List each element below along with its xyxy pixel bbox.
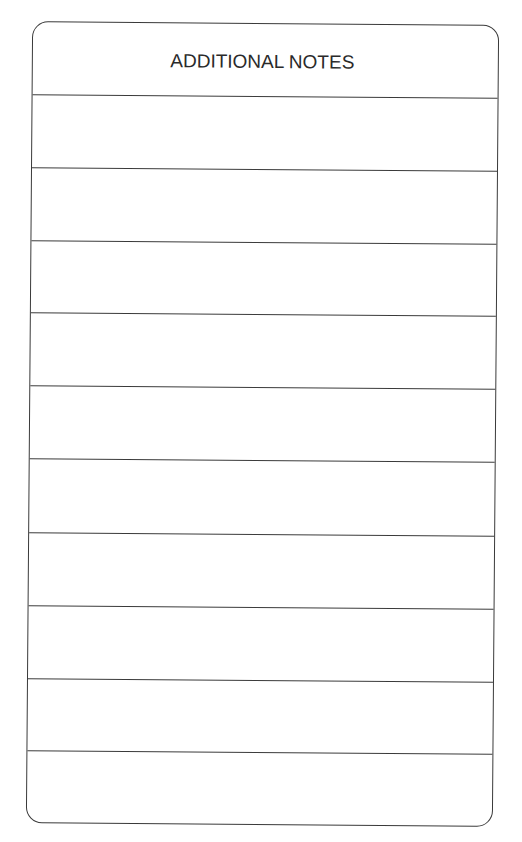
notes-title: ADDITIONAL NOTES xyxy=(170,50,354,73)
note-line-6[interactable] xyxy=(29,459,495,536)
note-line-10[interactable] xyxy=(27,751,493,825)
note-line-8[interactable] xyxy=(28,606,494,682)
note-line-3[interactable] xyxy=(31,241,497,316)
note-line-2[interactable] xyxy=(31,168,497,244)
note-line-1[interactable] xyxy=(32,95,498,171)
note-line-9[interactable] xyxy=(27,679,493,754)
additional-notes-card: ADDITIONAL NOTES xyxy=(26,21,499,827)
note-line-4[interactable] xyxy=(30,313,496,389)
notes-header: ADDITIONAL NOTES xyxy=(33,22,499,98)
note-line-7[interactable] xyxy=(29,533,495,609)
note-line-5[interactable] xyxy=(30,386,496,462)
